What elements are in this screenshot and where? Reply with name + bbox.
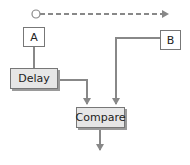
delay-to-compare-arrow <box>58 80 87 104</box>
timeline-start-circle-icon <box>32 10 40 18</box>
b-to-compare-arrow <box>116 38 160 104</box>
node-b-label: B <box>167 34 175 47</box>
node-delay-label: Delay <box>18 72 50 85</box>
node-compare: Compare <box>76 107 125 128</box>
diagram-canvas: A B Delay Compare <box>0 0 190 165</box>
node-delay: Delay <box>10 68 58 89</box>
node-b: B <box>160 30 181 50</box>
node-compare-label: Compare <box>76 111 126 124</box>
node-a: A <box>23 27 45 47</box>
timeline-arrow <box>32 10 168 18</box>
node-a-label: A <box>30 31 38 44</box>
